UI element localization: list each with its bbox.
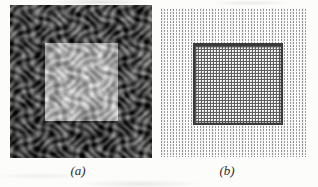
panel-b-grid-pattern: [161, 8, 306, 157]
panel-b-mesh-square: [193, 43, 283, 125]
caption-b: (b): [161, 162, 293, 180]
fabric-texture-canvas: [10, 5, 152, 158]
figure-container: (a) (b): [0, 0, 318, 187]
caption-a: (a): [8, 162, 148, 180]
panel-a-texture-image: [10, 5, 152, 158]
